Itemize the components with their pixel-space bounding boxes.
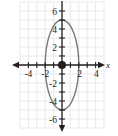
- x-tick-label-neg2: -2: [41, 69, 49, 79]
- y-tick-label-6: 6: [52, 7, 57, 17]
- x-tick-label-neg4: -4: [24, 69, 32, 79]
- y-tick-label-2: 2: [52, 43, 57, 53]
- center-point-marker: [58, 61, 66, 69]
- x-axis-left-arrow: [12, 62, 19, 68]
- x-tick-label-2: 2: [77, 69, 82, 79]
- coordinate-plane: -4 -2 2 4 6 4 2 -2 -4 -6 x: [0, 0, 118, 136]
- x-tick-label-4: 4: [94, 69, 99, 79]
- y-tick-label-neg2: -2: [49, 79, 57, 89]
- y-tick-label-neg6: -6: [49, 115, 57, 125]
- y-tick-label-neg4: -4: [49, 97, 57, 107]
- x-axis-label: x: [105, 60, 110, 70]
- graph-figure: -4 -2 2 4 6 4 2 -2 -4 -6 x: [0, 0, 118, 136]
- y-tick-label-4: 4: [52, 25, 57, 35]
